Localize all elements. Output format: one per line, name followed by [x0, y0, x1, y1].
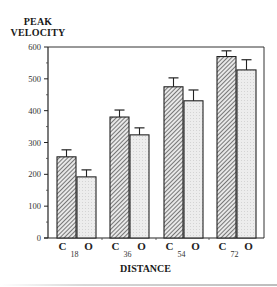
x-axis-label: DISTANCE: [0, 263, 277, 274]
x-tick-subscript: 18: [71, 250, 79, 259]
bar-chart: 0100200300400500600C18OC36OC54OC72O: [0, 0, 277, 287]
x-tick-label-c: C: [219, 240, 227, 252]
x-tick-subscript: 36: [124, 250, 132, 259]
y-tick-label: 400: [28, 106, 41, 116]
x-tick-subscript: 72: [231, 250, 239, 259]
y-tick-label: 500: [28, 74, 41, 84]
y-tick-label: 200: [28, 169, 41, 179]
x-tick-label-o: O: [137, 240, 146, 252]
x-tick-label-o: O: [84, 240, 93, 252]
bar-c-18: [57, 157, 76, 238]
y-tick-label: 100: [28, 201, 41, 211]
x-tick-label-c: C: [166, 240, 174, 252]
bar-o-18: [77, 177, 96, 238]
plot-area: 0100200300400500600C18OC36OC54OC72O: [28, 42, 264, 259]
bar-c-72: [217, 57, 236, 238]
x-tick-label-c: C: [59, 240, 67, 252]
y-tick-label: 300: [28, 138, 41, 148]
bar-o-54: [184, 101, 203, 238]
x-tick-label-o: O: [244, 240, 253, 252]
bar-o-72: [237, 70, 256, 238]
bar-o-36: [130, 135, 149, 238]
x-tick-label-o: O: [191, 240, 200, 252]
x-tick-subscript: 54: [178, 250, 186, 259]
y-tick-label: 600: [28, 42, 41, 52]
y-tick-label: 0: [37, 233, 41, 243]
bottom-divider: [0, 284, 277, 286]
bar-c-36: [110, 117, 129, 238]
x-tick-label-c: C: [112, 240, 120, 252]
bar-c-54: [164, 87, 183, 238]
